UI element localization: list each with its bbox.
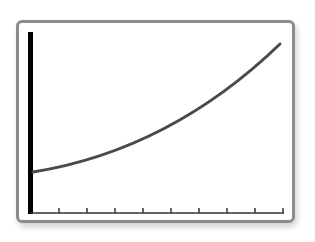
line-chart: [0, 0, 315, 242]
data-curve: [33, 44, 280, 172]
y-axis: [28, 32, 33, 214]
